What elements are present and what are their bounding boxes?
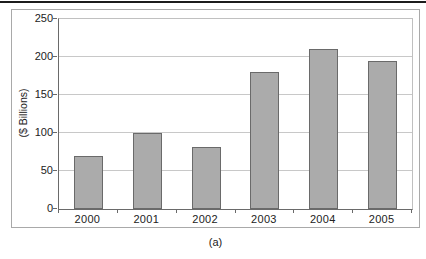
- y-tick-label-200: 200: [12, 50, 53, 62]
- x-tick-label-2001: 2001: [124, 213, 168, 225]
- bar-2001: [133, 133, 162, 209]
- chart-frame: ($ Billions) 050100150200250200020012002…: [11, 9, 420, 228]
- y-axis-title-wrap: ($ Billions): [14, 18, 30, 208]
- y-tick-mark-250: [53, 18, 57, 19]
- y-tick-mark-100: [53, 132, 57, 133]
- y-tick-mark-0: [53, 208, 57, 209]
- x-tick-label-2002: 2002: [183, 213, 227, 225]
- x-tick-label-2003: 2003: [242, 213, 286, 225]
- gridline-100: [59, 132, 412, 133]
- x-tick-mark-0: [58, 209, 59, 213]
- plot-area: [58, 18, 413, 210]
- bar-2005: [368, 61, 397, 209]
- gridline-150: [59, 94, 412, 95]
- y-tick-label-50: 50: [12, 164, 53, 176]
- y-tick-label-100: 100: [12, 126, 53, 138]
- y-tick-label-0: 0: [12, 202, 53, 214]
- figure-caption: (a): [11, 236, 420, 248]
- x-tick-mark-5: [352, 209, 353, 213]
- top-rule: [0, 1, 426, 3]
- y-tick-label-150: 150: [12, 88, 53, 100]
- x-tick-label-2004: 2004: [301, 213, 345, 225]
- y-tick-mark-50: [53, 170, 57, 171]
- page: ($ Billions) 050100150200250200020012002…: [0, 0, 426, 259]
- bar-2003: [250, 72, 279, 209]
- gridline-200: [59, 56, 412, 57]
- x-tick-mark-1: [117, 209, 118, 213]
- bar-2004: [309, 49, 338, 209]
- x-tick-mark-2: [176, 209, 177, 213]
- y-tick-label-250: 250: [12, 12, 53, 24]
- bar-2000: [74, 156, 103, 209]
- x-tick-label-2005: 2005: [360, 213, 404, 225]
- gridline-50: [59, 170, 412, 171]
- x-tick-mark-6: [411, 209, 412, 213]
- bar-2002: [192, 147, 221, 209]
- y-tick-mark-200: [53, 56, 57, 57]
- x-tick-label-2000: 2000: [65, 213, 109, 225]
- y-tick-mark-150: [53, 94, 57, 95]
- x-tick-mark-3: [235, 209, 236, 213]
- x-tick-mark-4: [293, 209, 294, 213]
